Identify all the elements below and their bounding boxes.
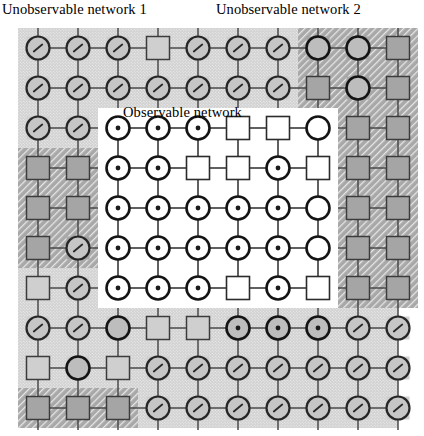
circle-with-dot-icon: [267, 237, 290, 260]
circle-with-tick-icon: [67, 117, 90, 140]
square-node-icon: [187, 317, 210, 340]
square-node-icon: [27, 277, 50, 300]
circle-with-tick-icon: [227, 357, 250, 380]
plain-circle-icon: [307, 37, 330, 60]
plain-circle-icon: [307, 197, 330, 220]
circle-with-tick-icon: [267, 37, 290, 60]
circle-with-tick-icon: [187, 37, 210, 60]
circle-with-tick-icon: [387, 397, 410, 420]
square-node-icon: [147, 37, 170, 60]
circle-with-tick-icon: [307, 397, 330, 420]
circle-with-dot-icon: [267, 197, 290, 220]
square-node-icon: [147, 317, 170, 340]
plain-circle-icon: [307, 237, 330, 260]
circle-with-dot-icon: [147, 277, 170, 300]
circle-with-dot-icon: [147, 197, 170, 220]
circle-with-tick-icon: [27, 77, 50, 100]
circle-with-dot-icon: [107, 237, 130, 260]
square-node-icon: [107, 397, 130, 420]
circle-with-dot-icon: [267, 157, 290, 180]
lattice-nodes: [0, 0, 424, 436]
circle-with-tick-icon: [147, 77, 170, 100]
square-node-icon: [347, 277, 370, 300]
circle-with-tick-icon: [67, 77, 90, 100]
square-node-icon: [27, 357, 50, 380]
circle-with-dot-icon: [187, 237, 210, 260]
circle-with-tick-icon: [67, 317, 90, 340]
circle-with-dot-icon: [227, 237, 250, 260]
circle-with-dot-icon: [107, 157, 130, 180]
circle-with-tick-icon: [147, 397, 170, 420]
circle-with-dot-icon: [147, 237, 170, 260]
circle-with-dot-icon: [307, 317, 330, 340]
circle-with-tick-icon: [187, 397, 210, 420]
circle-with-tick-icon: [147, 357, 170, 380]
square-node-icon: [67, 197, 90, 220]
circle-with-dot-icon: [187, 197, 210, 220]
square-node-icon: [27, 237, 50, 260]
circle-with-tick-icon: [267, 397, 290, 420]
circle-with-tick-icon: [227, 37, 250, 60]
square-node-icon: [307, 77, 330, 100]
circle-with-dot-icon: [267, 317, 290, 340]
square-node-icon: [387, 77, 410, 100]
square-node-icon: [267, 117, 290, 140]
square-node-icon: [227, 277, 250, 300]
square-node-icon: [347, 237, 370, 260]
circle-with-tick-icon: [67, 277, 90, 300]
square-node-icon: [307, 157, 330, 180]
circle-with-dot-icon: [227, 317, 250, 340]
circle-with-dot-icon: [147, 157, 170, 180]
circle-with-dot-icon: [107, 197, 130, 220]
plain-circle-icon: [347, 37, 370, 60]
circle-with-tick-icon: [107, 77, 130, 100]
square-node-icon: [107, 357, 130, 380]
network-figure: Unobservable network 1 Unobservable netw…: [0, 0, 424, 436]
square-node-icon: [307, 277, 330, 300]
plain-circle-icon: [307, 117, 330, 140]
circle-with-tick-icon: [347, 397, 370, 420]
plain-circle-icon: [347, 77, 370, 100]
circle-with-tick-icon: [267, 357, 290, 380]
square-node-icon: [227, 157, 250, 180]
circle-with-tick-icon: [307, 357, 330, 380]
square-node-icon: [347, 157, 370, 180]
circle-with-tick-icon: [347, 317, 370, 340]
circle-with-tick-icon: [27, 37, 50, 60]
circle-with-tick-icon: [187, 357, 210, 380]
square-node-icon: [387, 277, 410, 300]
square-node-icon: [387, 37, 410, 60]
circle-with-tick-icon: [387, 317, 410, 340]
circle-with-dot-icon: [267, 277, 290, 300]
plain-circle-icon: [67, 357, 90, 380]
circle-with-tick-icon: [267, 77, 290, 100]
circle-with-tick-icon: [27, 317, 50, 340]
circle-with-tick-icon: [67, 37, 90, 60]
label-observable-network: Observable network: [123, 104, 242, 121]
circle-with-tick-icon: [67, 237, 90, 260]
circle-with-dot-icon: [227, 197, 250, 220]
circle-with-dot-icon: [107, 277, 130, 300]
circle-with-tick-icon: [347, 357, 370, 380]
square-node-icon: [27, 397, 50, 420]
square-node-icon: [67, 157, 90, 180]
circle-with-tick-icon: [387, 357, 410, 380]
square-node-icon: [387, 157, 410, 180]
square-node-icon: [347, 117, 370, 140]
square-node-icon: [67, 397, 90, 420]
circle-with-tick-icon: [27, 117, 50, 140]
circle-with-tick-icon: [227, 397, 250, 420]
circle-with-tick-icon: [187, 77, 210, 100]
square-node-icon: [387, 197, 410, 220]
square-node-icon: [27, 157, 50, 180]
square-node-icon: [187, 157, 210, 180]
circle-with-tick-icon: [227, 77, 250, 100]
circle-with-tick-icon: [107, 37, 130, 60]
square-node-icon: [27, 197, 50, 220]
square-node-icon: [347, 197, 370, 220]
plain-circle-icon: [107, 317, 130, 340]
circle-with-dot-icon: [187, 277, 210, 300]
square-node-icon: [387, 117, 410, 140]
square-node-icon: [387, 237, 410, 260]
